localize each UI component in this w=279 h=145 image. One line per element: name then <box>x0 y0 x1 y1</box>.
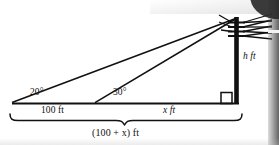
scan-edge-bottom-fade <box>0 138 279 145</box>
total-base-label: (100 + x) ft <box>92 128 139 138</box>
height-label-hft: h ft <box>243 52 256 62</box>
scan-edge-right-gap <box>268 30 279 33</box>
utility-pole-post <box>234 17 239 104</box>
figure-drawing <box>0 0 279 145</box>
angle-label-20: 20° <box>30 88 44 98</box>
base-segment-label-xft: x ft <box>163 106 175 116</box>
angle-label-30: 30° <box>113 88 127 98</box>
scan-edge-right <box>268 0 279 145</box>
base-segment-label-100ft: 100 ft <box>41 106 64 116</box>
trigonometry-figure: 20° 30° 100 ft x ft h ft (100 + x) ft <box>0 0 279 145</box>
total-base-brace <box>10 114 242 125</box>
right-angle-square-icon <box>221 93 232 104</box>
